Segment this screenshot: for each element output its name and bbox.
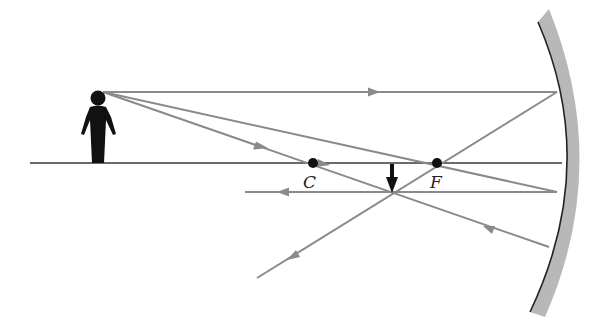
- object-person-icon: [81, 91, 116, 164]
- focal-point: [432, 158, 442, 168]
- focus-label: F: [430, 174, 442, 191]
- ray-diagram: C F: [0, 0, 605, 325]
- diagram-canvas: [0, 0, 605, 325]
- image-arrow: [386, 164, 398, 193]
- center-of-curvature-point: [308, 158, 318, 168]
- center-label: C: [303, 174, 316, 191]
- rays: [103, 92, 557, 278]
- ray-arrowheads: [253, 88, 495, 261]
